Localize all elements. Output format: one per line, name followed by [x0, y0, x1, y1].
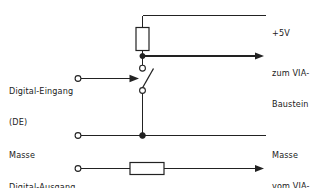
supply-rail-group — [143, 16, 267, 28]
label-digital-output-line1: Digital-Ausgang — [9, 182, 76, 188]
label-digital-output: Digital-Ausgang (DA) — [9, 162, 76, 188]
arrow-right-from-via-icon — [255, 165, 264, 172]
pullup-resistor-group — [136, 28, 149, 57]
terminal-digital-input — [75, 76, 81, 82]
series-resistor-body — [130, 163, 164, 175]
label-ground-left-text: Masse — [9, 150, 35, 160]
label-to-via-line1: zum VIA- — [272, 68, 309, 78]
junction-dot-ground — [140, 133, 146, 139]
label-digital-input-line2: (DE) — [9, 117, 73, 127]
circuit-diagram: Digital-Eingang (DE) Masse Digital-Ausga… — [0, 0, 316, 188]
digital-output-line-group — [75, 163, 264, 175]
label-from-via-line1: vom VIA- — [272, 181, 310, 188]
label-to-via-line2: Baustein — [272, 99, 309, 109]
label-supply-voltage-text: +5V — [272, 28, 290, 38]
switch-group — [140, 56, 154, 136]
terminal-digital-output — [75, 166, 81, 172]
label-ground-right-text: Masse — [272, 150, 298, 160]
arrow-right-actuator-icon — [130, 75, 140, 83]
pullup-resistor-body — [136, 28, 149, 51]
ground-rail-group — [75, 133, 266, 139]
label-to-via: zum VIA- Baustein — [272, 48, 309, 130]
switch-terminal-upper — [140, 65, 146, 71]
digital-input-line-group — [75, 75, 139, 83]
label-digital-input-line1: Digital-Eingang — [9, 86, 73, 96]
to-via-branch-group — [140, 52, 264, 59]
switch-terminal-lower — [140, 88, 146, 94]
arrow-right-to-via-icon — [255, 52, 264, 59]
label-from-via: vom VIA- Baustein — [272, 161, 310, 188]
terminal-ground-left — [75, 133, 81, 139]
